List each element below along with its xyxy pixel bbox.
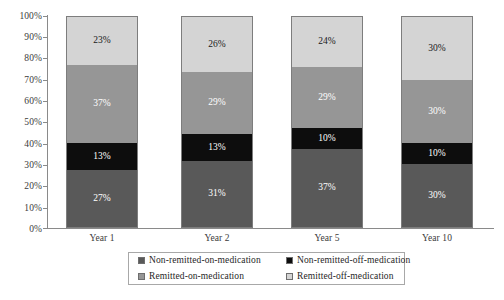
legend-label: Remitted-on-medication <box>149 272 244 282</box>
segment-value-label: 10% <box>428 149 446 159</box>
x-tick-label-year-1: Year 1 <box>52 234 152 244</box>
legend-swatch-icon <box>138 257 145 264</box>
bar-segment-non-remitted-off-medication[interactable]: 10% <box>292 128 362 149</box>
legend-item-remitted-on-medication[interactable]: Remitted-on-medication <box>138 272 286 282</box>
y-tick-label: 30% <box>0 161 42 171</box>
legend-item-remitted-off-medication[interactable]: Remitted-off-medication <box>286 272 410 282</box>
bar-segment-remitted-off-medication[interactable]: 26% <box>182 17 252 72</box>
legend-swatch-icon <box>138 273 145 280</box>
y-tick-label: 80% <box>0 54 42 64</box>
legend-item-non-remitted-on-medication[interactable]: Non-remitted-on-medication <box>138 256 286 266</box>
bar-segment-remitted-off-medication[interactable]: 24% <box>292 17 362 67</box>
segment-value-label: 27% <box>93 194 111 204</box>
bar-segment-non-remitted-on-medication[interactable]: 37% <box>292 149 362 227</box>
legend: Non-remitted-on-medication Non-remitted-… <box>128 252 405 285</box>
y-tick-label: 90% <box>0 33 42 43</box>
bar-segment-remitted-on-medication[interactable]: 29% <box>292 67 362 128</box>
bar-stack[interactable]: 30% 30% 10% 30% <box>401 16 473 228</box>
legend-swatch-icon <box>286 273 293 280</box>
x-tick-label-year-2: Year 2 <box>167 234 267 244</box>
segment-value-label: 13% <box>93 152 111 162</box>
segment-value-label: 30% <box>428 107 446 117</box>
segment-value-label: 13% <box>208 143 226 153</box>
y-tick-label: 60% <box>0 97 42 107</box>
plot-area: 23% 37% 13% 27% 26% 29% <box>48 16 492 228</box>
segment-value-label: 29% <box>208 98 226 108</box>
bar-segment-remitted-on-medication[interactable]: 37% <box>67 65 137 143</box>
y-tick-label: 20% <box>0 182 42 192</box>
y-tick-label: 100% <box>0 12 42 22</box>
x-tick-label-year-5: Year 5 <box>277 234 377 244</box>
segment-value-label: 24% <box>318 37 336 47</box>
x-tick-label-year-10: Year 10 <box>387 234 487 244</box>
bar-stack[interactable]: 24% 29% 10% 37% <box>291 16 363 228</box>
segment-value-label: 31% <box>208 189 226 199</box>
bar-segment-non-remitted-on-medication[interactable]: 30% <box>402 164 472 227</box>
bar-segment-non-remitted-off-medication[interactable]: 13% <box>182 134 252 162</box>
bar-segment-remitted-off-medication[interactable]: 23% <box>67 17 137 65</box>
bar-segment-non-remitted-off-medication[interactable]: 10% <box>402 143 472 164</box>
y-tick-label: 70% <box>0 76 42 86</box>
stacked-bar-chart: 100% 90% 80% 70% 60% 50% 40% 30% 20% 10%… <box>0 0 504 300</box>
y-tick-label: 50% <box>0 118 42 128</box>
x-axis-line <box>47 228 494 229</box>
legend-label: Non-remitted-on-medication <box>149 256 261 266</box>
y-tick-label: 0% <box>0 225 42 235</box>
segment-value-label: 23% <box>93 36 111 46</box>
bar-segment-non-remitted-on-medication[interactable]: 31% <box>182 161 252 227</box>
segment-value-label: 30% <box>428 44 446 54</box>
segment-value-label: 37% <box>318 183 336 193</box>
bar-segment-remitted-on-medication[interactable]: 30% <box>402 80 472 143</box>
bar-segment-remitted-on-medication[interactable]: 29% <box>182 72 252 134</box>
y-tick-label: 40% <box>0 140 42 150</box>
bar-stack[interactable]: 26% 29% 13% 31% <box>181 16 253 228</box>
legend-label: Non-remitted-off-medication <box>297 256 410 266</box>
segment-value-label: 10% <box>318 134 336 144</box>
segment-value-label: 29% <box>318 93 336 103</box>
legend-label: Remitted-off-medication <box>297 272 394 282</box>
bar-segment-remitted-off-medication[interactable]: 30% <box>402 17 472 80</box>
segment-value-label: 30% <box>428 191 446 201</box>
y-tick-label: 10% <box>0 204 42 214</box>
legend-swatch-icon <box>286 257 293 264</box>
bar-stack[interactable]: 23% 37% 13% 27% <box>66 16 138 228</box>
segment-value-label: 37% <box>93 99 111 109</box>
segment-value-label: 26% <box>208 40 226 50</box>
bar-segment-non-remitted-off-medication[interactable]: 13% <box>67 143 137 170</box>
bar-segment-non-remitted-on-medication[interactable]: 27% <box>67 170 137 227</box>
legend-item-non-remitted-off-medication[interactable]: Non-remitted-off-medication <box>286 256 410 266</box>
